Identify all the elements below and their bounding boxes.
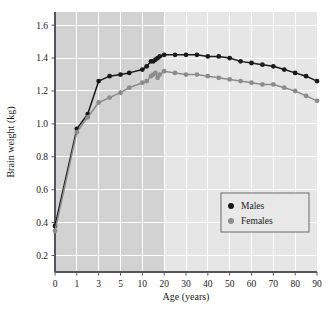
y-axis-title: Brain weight (kg) [5, 106, 17, 177]
data-point [127, 70, 132, 75]
data-point [227, 56, 232, 61]
brain-weight-vs-age-chart: 0135102030405060708090 0.20.40.60.81.01.… [0, 0, 336, 317]
data-point [96, 79, 101, 84]
data-point [157, 54, 162, 59]
data-point [85, 115, 90, 120]
data-point [107, 74, 112, 79]
data-point [153, 70, 158, 75]
y-tick-label: 0.2 [36, 251, 48, 261]
data-point [271, 64, 276, 69]
x-tick-label: 50 [225, 279, 235, 289]
legend-marker-females [228, 218, 234, 224]
data-point [53, 228, 58, 233]
data-point [315, 98, 320, 103]
data-point [238, 59, 243, 64]
data-point [195, 52, 200, 57]
x-tick-label: 90 [312, 279, 322, 289]
data-point [304, 74, 309, 79]
data-point [216, 54, 221, 59]
x-tick-label: 20 [159, 279, 169, 289]
data-point [107, 95, 112, 100]
x-tick-label: 30 [181, 279, 191, 289]
legend: MalesFemales [221, 193, 309, 232]
legend-label-males: Males [241, 201, 265, 211]
x-tick-label: 40 [203, 279, 213, 289]
y-tick-label: 1.6 [36, 21, 48, 31]
data-point [127, 85, 132, 90]
data-point [227, 77, 232, 82]
y-tick-label: 1.2 [36, 86, 48, 96]
legend-marker-males [228, 203, 234, 209]
legend-label-females: Females [241, 216, 273, 226]
data-point [282, 67, 287, 72]
data-point [205, 54, 210, 59]
x-tick-labels: 0135102030405060708090 [53, 279, 322, 289]
y-tick-labels: 0.20.40.60.81.01.21.41.6 [36, 21, 48, 261]
data-point [162, 69, 167, 74]
x-tick-label: 0 [53, 279, 58, 289]
data-point [144, 79, 149, 84]
data-point [118, 72, 123, 77]
data-point [195, 72, 200, 77]
x-axis-title: Age (years) [163, 291, 210, 303]
x-tick-label: 10 [138, 279, 148, 289]
data-point [173, 70, 178, 75]
data-point [144, 64, 149, 69]
data-point [184, 72, 189, 77]
data-point [205, 74, 210, 79]
y-tick-label: 0.8 [36, 152, 48, 162]
x-tick-label: 1 [74, 279, 79, 289]
x-tick-label: 70 [269, 279, 279, 289]
data-point [249, 61, 254, 66]
data-point [293, 89, 298, 94]
x-tick-label: 5 [118, 279, 123, 289]
data-point [282, 85, 287, 90]
y-tick-label: 0.6 [36, 185, 48, 195]
data-point [249, 80, 254, 85]
data-point [260, 62, 265, 67]
data-point [96, 100, 101, 105]
y-tick-label: 1.4 [36, 53, 48, 63]
data-point [140, 80, 145, 85]
data-point [238, 79, 243, 84]
chart-figure: 0135102030405060708090 0.20.40.60.81.01.… [0, 0, 336, 317]
data-point [173, 52, 178, 57]
data-point [74, 130, 79, 135]
data-point [140, 67, 145, 72]
shaded-age-band [55, 12, 164, 272]
x-tick-label: 3 [96, 279, 101, 289]
data-point [184, 52, 189, 57]
data-point [293, 70, 298, 75]
data-point [304, 94, 309, 99]
data-point [260, 82, 265, 87]
data-point [118, 90, 123, 95]
x-tick-label: 80 [290, 279, 300, 289]
y-tick-label: 1.0 [36, 119, 48, 129]
data-point [315, 79, 320, 84]
data-point [157, 72, 162, 77]
data-point [271, 82, 276, 87]
data-point [162, 52, 167, 57]
y-tick-label: 0.4 [36, 218, 48, 228]
data-point [216, 75, 221, 80]
x-tick-label: 60 [247, 279, 257, 289]
